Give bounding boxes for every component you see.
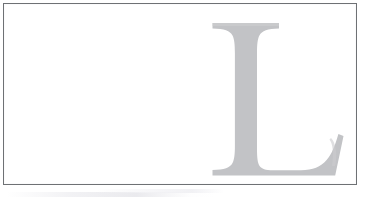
scanner-streak-artifact-secondary bbox=[96, 189, 224, 193]
dropcap-glyph-icon bbox=[205, 16, 350, 181]
scanned-page bbox=[0, 0, 375, 203]
dropcap-letter-L bbox=[205, 16, 350, 181]
